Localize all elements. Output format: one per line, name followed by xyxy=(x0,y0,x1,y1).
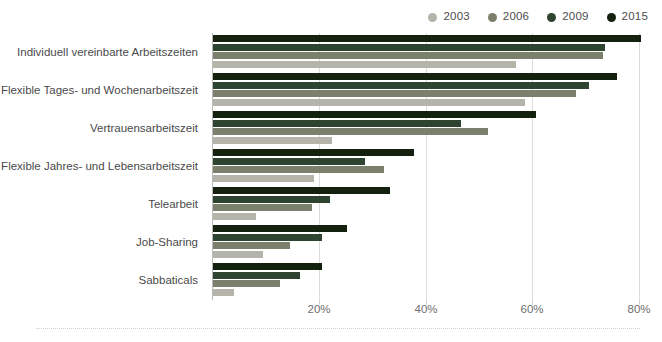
bar-2006 xyxy=(213,52,603,59)
category-label: Sabbaticals xyxy=(139,275,198,287)
bar-group xyxy=(213,73,651,105)
legend-swatch-icon xyxy=(607,13,616,22)
x-tick-label: 20% xyxy=(307,304,330,316)
chart-legend: 2003200620092015 xyxy=(428,8,648,26)
bar-2006 xyxy=(213,166,384,173)
bar-2009 xyxy=(213,82,589,89)
bar-2009 xyxy=(213,196,330,203)
bar-2003 xyxy=(213,99,525,106)
legend-item-2015[interactable]: 2015 xyxy=(607,11,648,23)
plot-area xyxy=(212,33,650,300)
bar-2003 xyxy=(213,251,263,258)
bar-2006 xyxy=(213,242,290,249)
legend-label: 2009 xyxy=(562,11,588,23)
category-label: Flexible Jahres- und Lebensarbeitszeit xyxy=(1,161,198,173)
bar-group xyxy=(213,225,651,257)
legend-label: 2006 xyxy=(503,11,529,23)
bar-group xyxy=(213,111,651,143)
legend-swatch-icon xyxy=(428,13,437,22)
bar-2015 xyxy=(213,111,536,118)
category-label: Flexible Tages- und Wochenarbeitszeit xyxy=(1,85,198,97)
chart-figure: 2003200620092015 Individuell vereinbarte… xyxy=(0,0,662,342)
bar-2009 xyxy=(213,234,322,241)
bar-group xyxy=(213,263,651,295)
legend-label: 2003 xyxy=(443,11,469,23)
category-axis-labels: Individuell vereinbarte ArbeitszeitenFle… xyxy=(0,33,205,300)
bar-2015 xyxy=(213,149,414,156)
category-label: Job-Sharing xyxy=(136,237,198,249)
legend-item-2003[interactable]: 2003 xyxy=(428,11,469,23)
bar-2009 xyxy=(213,44,605,51)
category-label: Individuell vereinbarte Arbeitszeiten xyxy=(17,47,198,59)
bar-2003 xyxy=(213,137,332,144)
footer-divider xyxy=(36,328,640,330)
bar-group xyxy=(213,149,651,181)
category-label: Telearbeit xyxy=(148,199,198,211)
bar-2015 xyxy=(213,263,322,270)
x-tick-label: 80% xyxy=(627,304,650,316)
bar-group xyxy=(213,187,651,219)
legend-swatch-icon xyxy=(547,13,556,22)
bar-2003 xyxy=(213,175,314,182)
bar-2006 xyxy=(213,280,280,287)
category-label: Vertrauensarbeitszeit xyxy=(90,123,198,135)
bar-2009 xyxy=(213,158,365,165)
bar-2009 xyxy=(213,120,461,127)
bar-2009 xyxy=(213,272,300,279)
bar-2015 xyxy=(213,225,347,232)
legend-item-2009[interactable]: 2009 xyxy=(547,11,588,23)
bar-2015 xyxy=(213,187,390,194)
bar-2015 xyxy=(213,35,641,42)
bar-2003 xyxy=(213,61,516,68)
bar-2006 xyxy=(213,204,312,211)
bar-group xyxy=(213,35,651,67)
bar-2015 xyxy=(213,73,617,80)
legend-item-2006[interactable]: 2006 xyxy=(488,11,529,23)
bar-2003 xyxy=(213,213,256,220)
bar-2006 xyxy=(213,90,576,97)
bar-2003 xyxy=(213,289,234,296)
legend-label: 2015 xyxy=(622,11,648,23)
legend-swatch-icon xyxy=(488,13,497,22)
x-tick-label: 60% xyxy=(520,304,543,316)
bar-2006 xyxy=(213,128,488,135)
x-tick-label: 40% xyxy=(414,304,437,316)
